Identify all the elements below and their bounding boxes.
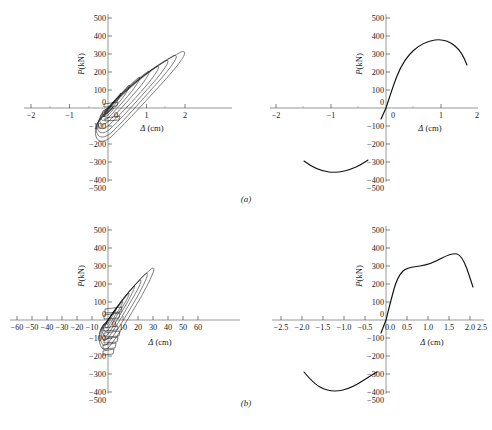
y-tick-label: 300 xyxy=(94,50,106,59)
y-tick-label: −300 xyxy=(89,158,106,167)
x-tick-label: −40 xyxy=(41,323,54,332)
x-axis-title: Δ(cm) xyxy=(147,337,171,347)
skeleton-positive-branch xyxy=(381,40,467,119)
x-tick-label: 1 xyxy=(144,111,148,120)
x-tick-label: 20 xyxy=(134,323,142,332)
x-tick-label: −2.5 xyxy=(274,323,289,332)
x-tick-label: −50 xyxy=(26,323,39,332)
y-tick-label: 200 xyxy=(94,280,106,289)
y-tick-label: 100 xyxy=(94,86,106,95)
x-tick-marks xyxy=(281,316,470,320)
x-tick-label: −2 xyxy=(272,111,281,120)
x-tick-label: 2.0 xyxy=(465,323,475,332)
x-axis-title: Δ(cm) xyxy=(139,123,163,133)
svg-text:P(kN): P(kN) xyxy=(354,53,364,76)
x-tick-label: 0.0 xyxy=(385,323,395,332)
x-tick-label: −10 xyxy=(86,323,99,332)
y-tick-label: 500 xyxy=(94,226,106,235)
y-tick-label: 300 xyxy=(94,262,106,271)
skeleton-positive-branch xyxy=(381,254,473,333)
y-tick-label: 0 xyxy=(380,98,384,107)
x-tick-label: −60 xyxy=(11,323,24,332)
y-tick-label: −100 xyxy=(367,122,384,131)
y-tick-label: −500 xyxy=(89,184,106,193)
y-tick-marks xyxy=(108,230,112,392)
x-tick-label: −0.5 xyxy=(358,323,373,332)
x-tick-label: 1.5 xyxy=(444,323,454,332)
y-tick-label: 0 xyxy=(380,310,384,319)
panel-label-a: (a) xyxy=(0,194,492,204)
x-tick-label: 50 xyxy=(179,323,187,332)
x-tick-label: 1 xyxy=(439,111,443,120)
skeleton-negative-branch xyxy=(304,372,377,391)
skeleton-negative-branch xyxy=(304,160,368,172)
y-tick-label: 100 xyxy=(372,86,384,95)
y-tick-label: −200 xyxy=(367,140,384,149)
x-tick-label: 2 xyxy=(475,111,479,120)
hysteresis-loops xyxy=(99,268,154,355)
y-tick-label: 400 xyxy=(94,32,106,41)
y-tick-label: 200 xyxy=(94,68,106,77)
y-tick-label: 500 xyxy=(372,226,384,235)
x-tick-label: 0 xyxy=(391,111,395,120)
figure-container: −2 −1 0 1 2 500 400 300 200 100 0 −100 −… xyxy=(0,0,492,430)
y-tick-marks xyxy=(108,18,112,180)
x-tick-label: −1 xyxy=(327,111,336,120)
y-tick-label: 200 xyxy=(372,280,384,289)
y-tick-label: −200 xyxy=(367,352,384,361)
y-tick-label: −200 xyxy=(89,352,106,361)
x-tick-label: 0.5 xyxy=(402,323,412,332)
y-tick-label: 100 xyxy=(94,298,106,307)
y-tick-label: −300 xyxy=(367,158,384,167)
x-tick-label: 2 xyxy=(183,111,187,120)
svg-text:P(kN): P(kN) xyxy=(76,53,86,76)
y-tick-label: −300 xyxy=(367,370,384,379)
plot-b-hysteresis-svg: −60 −50 −40 −30 −20 −10 0 10 20 30 40 50… xyxy=(0,215,246,410)
x-tick-marks xyxy=(276,104,441,108)
x-tick-label: −2.0 xyxy=(295,323,310,332)
y-tick-label: 300 xyxy=(372,262,384,271)
y-tick-label: 300 xyxy=(372,50,384,59)
y-axis-title: P(kN) xyxy=(76,53,86,76)
y-tick-label: 100 xyxy=(372,298,384,307)
x-axis-title: Δ(cm) xyxy=(417,123,441,133)
x-tick-label: −1.5 xyxy=(316,323,331,332)
y-tick-label: 500 xyxy=(94,14,106,23)
x-tick-label: −1 xyxy=(65,111,74,120)
y-axis-title: P(kN) xyxy=(354,265,364,288)
x-tick-label: 40 xyxy=(164,323,172,332)
y-tick-label: −300 xyxy=(89,370,106,379)
svg-text:P(kN): P(kN) xyxy=(354,265,364,288)
x-tick-marks xyxy=(17,316,198,320)
y-tick-label: 200 xyxy=(372,68,384,77)
x-tick-label: 2.5 xyxy=(477,323,487,332)
y-axis-title: P(kN) xyxy=(354,53,364,76)
y-tick-label: 400 xyxy=(372,32,384,41)
y-tick-label: 500 xyxy=(372,14,384,23)
x-tick-label: −30 xyxy=(56,323,69,332)
plot-a-hysteresis-svg: −2 −1 0 1 2 500 400 300 200 100 0 −100 −… xyxy=(0,0,246,195)
y-tick-label: 400 xyxy=(372,244,384,253)
y-tick-label: 400 xyxy=(94,244,106,253)
x-tick-label: −2 xyxy=(27,111,36,120)
y-axis-title: P(kN) xyxy=(76,265,86,288)
plot-b-skeleton-svg: −2.5 −2.0 −1.5 −1.0 −0.5 0.0 0.5 1.0 1.5… xyxy=(246,215,492,410)
x-axis-title: Δ(cm) xyxy=(419,337,443,347)
panel-label-b: (b) xyxy=(0,398,492,408)
x-tick-label: −20 xyxy=(71,323,84,332)
x-tick-label: 60 xyxy=(194,323,202,332)
y-tick-label: −500 xyxy=(367,184,384,193)
y-tick-label: −100 xyxy=(367,334,384,343)
svg-text:P(kN): P(kN) xyxy=(76,265,86,288)
x-tick-label: −1.0 xyxy=(337,323,352,332)
x-tick-label: 1.0 xyxy=(423,323,433,332)
x-tick-label: 30 xyxy=(149,323,157,332)
plot-a-skeleton-svg: −2 −1 0 1 2 500 400 300 200 100 0 −100 −… xyxy=(246,0,492,195)
